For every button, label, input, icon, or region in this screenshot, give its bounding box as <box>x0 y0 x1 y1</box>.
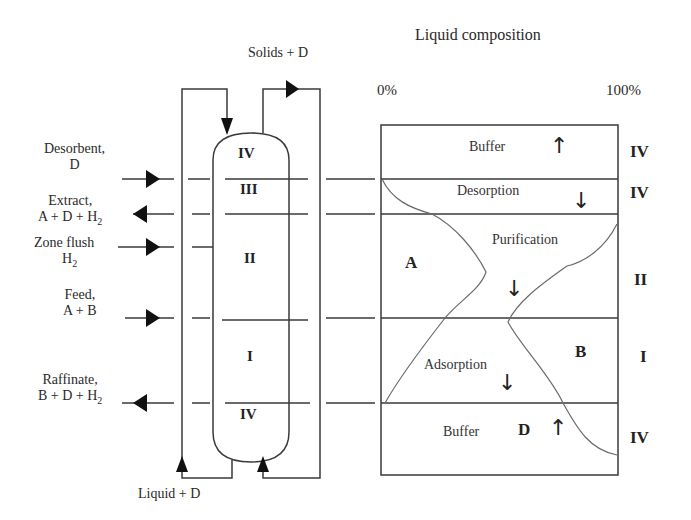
column-zone-i: I <box>247 348 253 365</box>
profile-zone-iv-1: IV <box>630 142 649 162</box>
arrow-liquid-down-icon <box>221 118 233 135</box>
stream-extract: Extract, A + D + H2 <box>38 193 102 230</box>
profile-zone-ii: II <box>634 270 647 290</box>
diagram-canvas <box>0 0 691 520</box>
component-b-label: B <box>575 342 586 362</box>
zone-boundaries <box>118 179 375 403</box>
column-zone-iii: III <box>240 181 258 198</box>
arrow-zone-flush-in-icon <box>146 238 160 256</box>
axis-max-label: 100% <box>606 82 641 98</box>
up-arrow-icon: ↑ <box>549 417 567 439</box>
arrow-desorbent-in-icon <box>146 170 160 188</box>
arrow-extract-out-icon <box>133 205 147 223</box>
liquid-stream-label: Liquid + D <box>138 486 200 502</box>
stream-desorbent: Desorbent, D <box>44 141 105 173</box>
stream-zone-flush: Zone flush H2 <box>34 235 94 272</box>
region-buffer-bottom: Buffer <box>443 424 479 440</box>
solids-stream-label: Solids + D <box>248 45 308 61</box>
profile-zone-iv-3: IV <box>630 428 649 448</box>
region-adsorption: Adsorption <box>424 357 487 373</box>
liquid-loop-left <box>182 89 232 478</box>
down-arrow-icon: ↓ <box>572 190 590 212</box>
component-a-label: A <box>405 253 417 273</box>
down-arrow-icon: ↓ <box>498 372 516 394</box>
arrow-raffinate-out-icon <box>133 394 147 412</box>
column-zone-ii: II <box>244 250 256 267</box>
arrow-feed-in-icon <box>146 309 160 327</box>
solids-loop-right <box>263 89 320 478</box>
down-arrow-icon: ↓ <box>505 278 523 300</box>
arrow-liquid-up-icon <box>176 456 188 472</box>
composition-box <box>381 125 618 475</box>
region-buffer-top: Buffer <box>469 139 505 155</box>
stream-raffinate: Raffinate, B + D + H2 <box>38 372 102 409</box>
column-zone-iv-top: IV <box>238 145 255 162</box>
component-d-label: D <box>518 420 530 440</box>
profile-zone-iv-2: IV <box>630 183 649 203</box>
stream-feed: Feed, A + B <box>63 287 97 319</box>
axis-min-label: 0% <box>377 82 397 98</box>
chart-title: Liquid composition <box>415 27 541 43</box>
region-desorption: Desorption <box>457 183 519 199</box>
up-arrow-icon: ↑ <box>550 135 568 157</box>
region-purification: Purification <box>492 232 558 248</box>
arrow-solids-up-icon <box>257 456 269 472</box>
profile-zone-i: I <box>640 347 647 367</box>
arrow-solids-right-icon <box>286 80 299 98</box>
column-zone-iv-bottom: IV <box>240 406 257 423</box>
